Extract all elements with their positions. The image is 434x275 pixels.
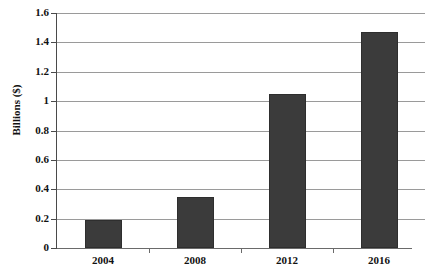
x-tick-mark (149, 248, 150, 253)
y-tick-label-wrap: 1.4 (0, 36, 49, 47)
y-tick-label-wrap: 1 (0, 95, 49, 106)
y-tick-label: 0.4 (3, 183, 49, 194)
bar-chart: Billions ($) 00.20.40.60.811.21.41.6 200… (0, 0, 434, 275)
gridline (57, 13, 425, 14)
x-tick-mark (333, 248, 334, 253)
y-tick-label-wrap: 0.6 (0, 154, 49, 165)
y-tick-label-wrap: 0.8 (0, 125, 49, 136)
bar (269, 94, 306, 248)
y-tick-label: 0 (3, 242, 49, 253)
bar (177, 197, 214, 248)
y-tick-label: 1 (3, 95, 49, 106)
x-axis-category-label: 2016 (344, 254, 414, 267)
x-axis-category-label: 2004 (68, 254, 138, 267)
y-tick-label-wrap: 1.2 (0, 66, 49, 77)
x-axis-category-label: 2008 (160, 254, 230, 267)
plot-area (57, 13, 425, 248)
y-tick-label-wrap: 0 (0, 242, 49, 253)
bar (85, 220, 122, 248)
y-tick-label-wrap: 1.6 (0, 7, 49, 18)
x-axis-line (57, 248, 412, 249)
y-tick-label-wrap: 0.4 (0, 183, 49, 194)
x-tick-mark (241, 248, 242, 253)
y-tick-label: 1.4 (3, 36, 49, 47)
x-axis-category-label: 2012 (252, 254, 322, 267)
y-tick-label: 0.2 (3, 213, 49, 224)
y-tick-label: 0.8 (3, 125, 49, 136)
bar (361, 32, 398, 248)
y-tick-label: 1.6 (3, 7, 49, 18)
y-tick-label: 1.2 (3, 66, 49, 77)
y-tick-label: 0.6 (3, 154, 49, 165)
y-tick-label-wrap: 0.2 (0, 213, 49, 224)
